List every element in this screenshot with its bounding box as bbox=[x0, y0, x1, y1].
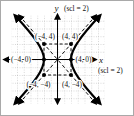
point-label-left-vertex: (−4, 0) bbox=[11, 55, 31, 64]
point-label-top-left: (−4, 4) bbox=[35, 32, 55, 41]
corner-dot-top-right bbox=[69, 42, 73, 46]
point-label-right-vertex: (4, 0) bbox=[76, 55, 92, 64]
vertex-dot-right bbox=[69, 58, 73, 62]
y-axis-label: y bbox=[54, 3, 59, 13]
corner-dot-bottom-right bbox=[69, 73, 73, 77]
vertex-dot-left bbox=[42, 58, 46, 62]
corner-dot-top-left bbox=[42, 42, 46, 46]
point-label-bottom-right: (4, −4) bbox=[62, 80, 82, 89]
graph-figure: (−4, 4) (4, 4) (−4, 0) (4, 0) (−4, −4) (… bbox=[0, 0, 134, 116]
point-label-top-right: (4, 4) bbox=[62, 32, 78, 41]
y-axis-scale-note: (scl = 2) bbox=[64, 4, 89, 13]
corner-dot-bottom-left bbox=[42, 73, 46, 77]
point-label-bottom-left: (−4, −4) bbox=[26, 80, 51, 89]
x-axis-scale-note: (scl = 2) bbox=[98, 66, 123, 75]
x-axis-label: x bbox=[98, 55, 103, 65]
